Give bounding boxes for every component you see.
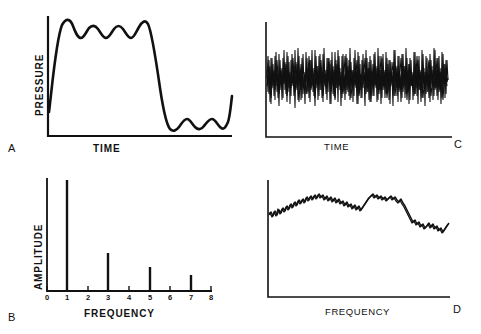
panel-c-noise-trace — [267, 48, 448, 108]
tick-label-3: 3 — [104, 293, 112, 302]
panel-d: FREQUENCY D — [240, 166, 481, 334]
panel-a-y-axis-label: PRESSURE — [34, 54, 45, 116]
tick-label-4: 4 — [125, 293, 133, 302]
fourier-figure: PRESSURE TIME A TIME C — [0, 0, 481, 334]
panel-d-letter: D — [453, 303, 461, 315]
panel-d-x-axis-label: FREQUENCY — [325, 306, 390, 317]
panel-a-letter: A — [8, 142, 16, 154]
panel-c-plot — [240, 0, 481, 166]
tick-label-0: 0 — [43, 293, 51, 302]
panel-b: 0 1 2 3 4 5 6 7 8 AMPLITUDE FREQUENCY B — [0, 166, 240, 334]
panel-b-y-axis-label: AMPLITUDE — [33, 224, 44, 290]
tick-label-5: 5 — [146, 293, 154, 302]
panel-a-x-axis-label: TIME — [93, 143, 121, 154]
panel-b-x-axis-label: FREQUENCY — [84, 308, 155, 319]
panel-b-letter: B — [8, 311, 16, 323]
tick-label-2: 2 — [84, 293, 92, 302]
panel-a: PRESSURE TIME A — [0, 0, 240, 166]
tick-label-6: 6 — [166, 293, 174, 302]
tick-label-1: 1 — [63, 293, 71, 302]
panel-c-x-axis-label: TIME — [324, 141, 349, 152]
panel-c-letter: C — [454, 138, 462, 150]
tick-label-7: 7 — [187, 293, 195, 302]
panel-d-spectrum-trace-detail — [269, 195, 448, 233]
panel-a-waveform — [49, 20, 232, 131]
panel-c: TIME C — [240, 0, 481, 166]
panel-d-axes — [268, 180, 450, 297]
tick-label-8: 8 — [207, 293, 215, 302]
